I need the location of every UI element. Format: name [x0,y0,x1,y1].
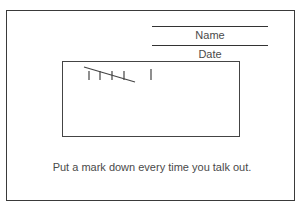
tally-marks-icon [0,0,304,217]
instruction-text: Put a mark down every time you talk out. [0,161,304,173]
